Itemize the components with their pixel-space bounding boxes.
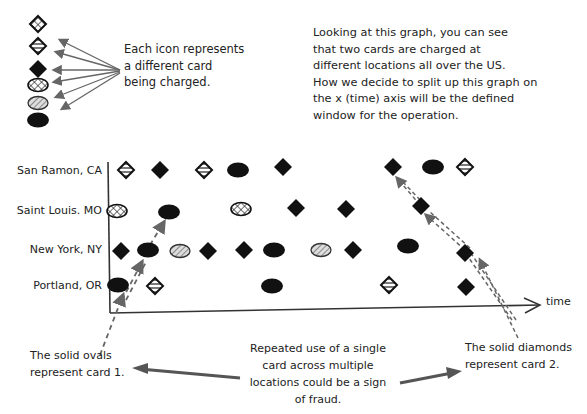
legend-caption: Each icon represents a different card be… [124, 41, 244, 91]
solid-oval-icon [263, 243, 285, 258]
crosshatch-oval-icon [231, 203, 251, 216]
solid-oval-icon [422, 160, 444, 175]
fraud-annotation: Repeated use of a single card across mul… [238, 340, 398, 408]
solid-diamond-icon [337, 200, 355, 218]
solid-oval-icon [261, 279, 283, 294]
y-label-san-ramon: San Ramon, CA [2, 164, 102, 177]
solid-oval-icon [107, 278, 129, 293]
y-axis [108, 162, 110, 313]
solid-diamond-icon [151, 161, 169, 179]
solid-diamond-icon [456, 244, 474, 262]
solid-diamond-icon [384, 158, 402, 176]
solid-diamond-icon [235, 241, 253, 259]
intro-text: Looking at this graph, you can see that … [313, 25, 537, 124]
arrow-right-icon [446, 367, 462, 379]
crosshatch-oval-icon [107, 205, 127, 218]
hatched-oval-icon [28, 97, 48, 110]
striped-diamond-icon [196, 162, 212, 178]
solid-diamond-icon [344, 241, 362, 259]
solid-oval-icon [227, 163, 249, 178]
y-label-saint-louis: Saint Louis. MO [2, 204, 102, 217]
legend-icons [27, 16, 49, 128]
solid-diamond-icon [287, 199, 305, 217]
solid-diamond-icon [457, 278, 475, 296]
hatched-oval-icon [311, 244, 331, 257]
crosshatch-diamond-icon [30, 16, 46, 32]
solid-diamond-icon [112, 242, 130, 260]
x-axis-label: time [546, 294, 571, 311]
legend-arrows [54, 40, 120, 109]
crosshatch-oval-icon [28, 79, 48, 92]
x-axis [110, 305, 540, 313]
arrow-left-icon [132, 363, 148, 374]
striped-diamond-icon [457, 159, 473, 175]
striped-diamond-icon [118, 162, 134, 178]
y-label-new-york: New York, NY [2, 243, 102, 256]
hatched-oval-icon [170, 245, 190, 258]
solid-oval-icon [27, 113, 49, 128]
card1-annotation: The solid ovals represent card 1. [30, 347, 124, 381]
card2-annotation: The solid diamonds represent card 2. [465, 339, 572, 373]
solid-diamond-icon [274, 158, 292, 176]
striped-diamond-icon [30, 38, 46, 54]
solid-diamond-icon [29, 60, 47, 78]
solid-oval-icon [397, 239, 419, 254]
solid-oval-icon [137, 243, 159, 258]
striped-diamond-icon [147, 278, 163, 294]
striped-diamond-icon [381, 277, 397, 293]
card2-path [397, 178, 518, 338]
y-label-portland: Portland, OR [2, 279, 102, 292]
axes [108, 162, 540, 313]
plot-markers [107, 158, 475, 296]
solid-diamond-icon [199, 242, 217, 260]
solid-oval-icon [158, 205, 180, 220]
